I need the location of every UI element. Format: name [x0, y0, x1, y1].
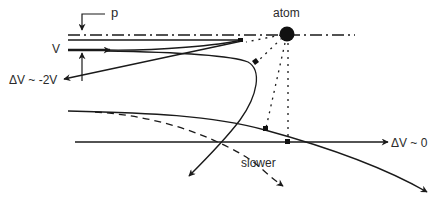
atom-label: atom	[273, 7, 300, 19]
slower-trajectory	[95, 112, 283, 186]
slower-label: slower	[241, 157, 276, 169]
closest-approach-dotted-2	[257, 38, 282, 62]
backscatter-delta-label: ΔV ~ -2V	[9, 74, 57, 86]
forward-delta-label: ΔV ~ 0	[391, 137, 427, 149]
trajectory-diagram	[0, 0, 435, 198]
loop-closest-point	[252, 58, 259, 65]
impact-parameter-label: p	[111, 6, 118, 19]
atom-icon	[280, 27, 295, 42]
turning-point-marker	[238, 38, 243, 42]
deflected-trajectory	[68, 111, 427, 192]
closest-approach-dotted-1	[246, 35, 281, 42]
straight-closest-point	[285, 139, 290, 144]
velocity-label: V	[52, 43, 60, 55]
closest-approach-dotted-3	[266, 43, 285, 128]
reflected-trajectory	[64, 41, 242, 79]
deflected-closest-point	[263, 126, 268, 131]
impact-parameter-bracket	[82, 14, 105, 30]
